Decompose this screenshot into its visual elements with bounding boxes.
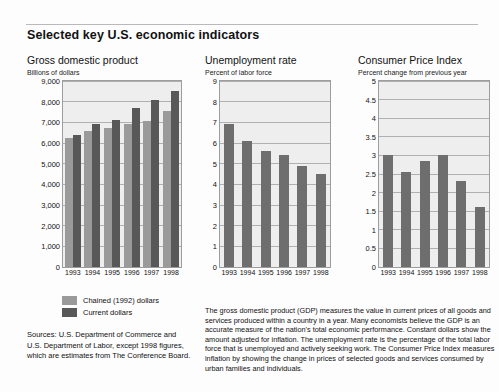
y-axis-tick-label: 6 bbox=[213, 139, 217, 148]
plot-area-gdp: 01,0002,0003,0004,0005,0006,0007,0008,00… bbox=[62, 80, 182, 268]
bar bbox=[224, 124, 234, 267]
bar bbox=[65, 138, 73, 267]
y-axis-tick-label: 8,000 bbox=[41, 97, 60, 106]
x-axis-tick-label: 1998 bbox=[163, 269, 179, 276]
legend-item: Current dollars bbox=[62, 308, 159, 317]
x-axis-tick-label: 1997 bbox=[454, 269, 470, 276]
bar-group bbox=[456, 81, 466, 267]
bar-group bbox=[104, 81, 120, 267]
x-axis-labels-unemployment: 199319941995199619971998 bbox=[220, 269, 330, 276]
x-axis-tick-label: 1996 bbox=[124, 269, 140, 276]
x-axis-tick-label: 1997 bbox=[295, 269, 311, 276]
y-axis-tick-label: 5 bbox=[372, 77, 376, 86]
bar bbox=[124, 124, 132, 267]
legend-label-chained-dollars: Chained (1992) dollars bbox=[83, 296, 159, 305]
legend-swatch-current-dollars bbox=[62, 308, 77, 317]
chart-panel-gdp: Gross domestic product Billions of dolla… bbox=[27, 54, 187, 268]
bar-group bbox=[143, 81, 159, 267]
x-axis-tick-label: 1996 bbox=[276, 269, 292, 276]
bar-group bbox=[475, 81, 485, 267]
page-title: Selected key U.S. economic indicators bbox=[27, 28, 259, 42]
y-axis-tick-label: 5,000 bbox=[41, 159, 60, 168]
legend-item: Chained (1992) dollars bbox=[62, 296, 159, 305]
x-axis-labels-cpi: 199319941995199619971998 bbox=[379, 269, 489, 276]
bar bbox=[112, 120, 120, 267]
chart-title-cpi: Consumer Price Index bbox=[358, 54, 498, 66]
bar-group bbox=[401, 81, 411, 267]
y-axis-tick-label: 4,000 bbox=[41, 180, 60, 189]
bar bbox=[151, 100, 159, 267]
y-axis-tick-label: 7 bbox=[213, 118, 217, 127]
bar-group-container-unemployment bbox=[220, 81, 330, 267]
bar-group bbox=[124, 81, 140, 267]
bar-group bbox=[316, 81, 326, 267]
bar-group-container-gdp bbox=[63, 81, 181, 267]
bar bbox=[420, 161, 430, 267]
explanatory-note: The gross domestic product (GDP) measure… bbox=[205, 306, 495, 373]
bar bbox=[279, 155, 289, 267]
y-axis-tick-label: 2,000 bbox=[41, 221, 60, 230]
bar-group-container-cpi bbox=[379, 81, 489, 267]
bar-group bbox=[297, 81, 307, 267]
bar-group bbox=[438, 81, 448, 267]
x-axis-tick-label: 1994 bbox=[85, 269, 101, 276]
y-axis-tick-label: 0 bbox=[213, 263, 217, 272]
bar bbox=[438, 155, 448, 267]
bar bbox=[171, 91, 179, 267]
y-axis-tick-label: 1,000 bbox=[41, 242, 60, 251]
y-axis-tick-label: 0 bbox=[56, 263, 60, 272]
bar-group bbox=[420, 81, 430, 267]
bar-group bbox=[163, 81, 179, 267]
bar-group bbox=[383, 81, 393, 267]
bar-group bbox=[261, 81, 271, 267]
plot-area-cpi: 00.511.522.533.544.55 199319941995199619… bbox=[378, 80, 490, 268]
x-axis-labels-gdp: 199319941995199619971998 bbox=[63, 269, 181, 276]
y-axis-tick-label: 4 bbox=[213, 180, 217, 189]
x-axis-tick-label: 1996 bbox=[435, 269, 451, 276]
bar bbox=[401, 172, 411, 267]
bar bbox=[92, 124, 100, 267]
chart-panel-unemployment: Unemployment rate Percent of labor force… bbox=[205, 54, 345, 268]
legend-swatch-chained-dollars bbox=[62, 296, 77, 305]
y-axis-tick-label: 3 bbox=[372, 151, 376, 160]
y-axis-tick-label: 6,000 bbox=[41, 139, 60, 148]
bar bbox=[316, 174, 326, 267]
x-axis-tick-label: 1998 bbox=[472, 269, 488, 276]
bar-group bbox=[65, 81, 81, 267]
bar bbox=[73, 135, 81, 267]
bar bbox=[261, 151, 271, 267]
x-axis-tick-label: 1995 bbox=[417, 269, 433, 276]
bar bbox=[84, 131, 92, 267]
x-axis-tick-label: 1993 bbox=[380, 269, 396, 276]
y-axis-tick-label: 4.5 bbox=[366, 95, 376, 104]
y-axis-tick-label: 8 bbox=[213, 97, 217, 106]
bar bbox=[163, 111, 171, 267]
bar bbox=[456, 181, 466, 267]
bar-group bbox=[224, 81, 234, 267]
y-axis-tick-label: 7,000 bbox=[41, 118, 60, 127]
bar bbox=[383, 155, 393, 267]
y-axis-tick-label: 0 bbox=[372, 263, 376, 272]
chart-legend: Chained (1992) dollars Current dollars bbox=[62, 296, 159, 320]
bar-group bbox=[279, 81, 289, 267]
bar-group bbox=[84, 81, 100, 267]
y-axis-tick-label: 1 bbox=[213, 242, 217, 251]
bar bbox=[297, 166, 307, 267]
y-axis-tick-label: 1 bbox=[372, 225, 376, 234]
chart-subtitle-cpi: Percent change from previous year bbox=[358, 68, 498, 77]
y-axis-tick-label: 4 bbox=[372, 114, 376, 123]
y-axis-tick-label: 9 bbox=[213, 77, 217, 86]
chart-title-gdp: Gross domestic product bbox=[27, 54, 187, 66]
x-axis-tick-label: 1995 bbox=[258, 269, 274, 276]
legend-label-current-dollars: Current dollars bbox=[83, 308, 132, 317]
y-axis-tick-label: 0.5 bbox=[366, 244, 376, 253]
bar bbox=[104, 128, 112, 268]
y-axis-tick-label: 3.5 bbox=[366, 132, 376, 141]
bar bbox=[242, 141, 252, 267]
x-axis-tick-label: 1993 bbox=[65, 269, 81, 276]
x-axis-tick-label: 1994 bbox=[240, 269, 256, 276]
x-axis-tick-label: 1993 bbox=[221, 269, 237, 276]
y-axis-tick-label: 9,000 bbox=[41, 77, 60, 86]
chart-panel-cpi: Consumer Price Index Percent change from… bbox=[358, 54, 498, 268]
plot-area-unemployment: 0123456789 199319941995199619971998 bbox=[219, 80, 331, 268]
